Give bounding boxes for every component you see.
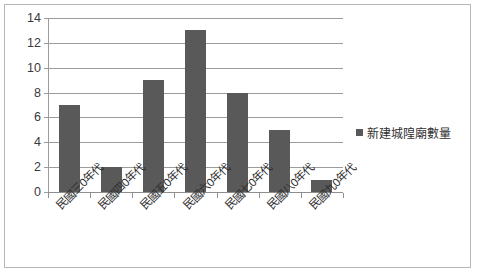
x-axis-tick-mark — [343, 193, 344, 198]
gridline — [48, 18, 343, 19]
x-axis-tick-mark — [174, 193, 175, 198]
x-axis-tick-mark — [48, 193, 49, 198]
y-axis-tick-label: 0 — [11, 185, 41, 199]
y-axis-tick-label: 10 — [11, 61, 41, 75]
y-axis-tick-mark — [44, 117, 48, 118]
x-axis-tick-mark — [259, 193, 260, 198]
y-axis-tick-mark — [44, 93, 48, 94]
legend-color-swatch — [356, 129, 363, 136]
y-axis-tick-label: 14 — [11, 11, 41, 25]
y-axis-tick-mark — [44, 18, 48, 19]
chart-frame: 02468101214 民國三0年代民國四0年代民國五0年代民國六0年代民國七0… — [4, 4, 471, 268]
x-axis-tick-mark — [217, 193, 218, 198]
x-axis-tick-mark — [132, 193, 133, 198]
chart-legend: 新建城隍廟數量 — [356, 124, 451, 141]
y-axis-tick-label: 12 — [11, 36, 41, 50]
y-axis-tick-label: 4 — [11, 135, 41, 149]
y-axis-tick-mark — [44, 142, 48, 143]
y-axis-tick-mark — [44, 68, 48, 69]
x-axis-tick-mark — [301, 193, 302, 198]
y-axis-line — [48, 18, 49, 192]
x-axis-tick-mark — [90, 193, 91, 198]
legend-series-label: 新建城隍廟數量 — [367, 124, 451, 141]
y-axis-tick-label: 2 — [11, 160, 41, 174]
y-axis-tick-label: 6 — [11, 110, 41, 124]
y-axis-tick-label: 8 — [11, 86, 41, 100]
y-axis-tick-mark — [44, 43, 48, 44]
y-axis-tick-mark — [44, 167, 48, 168]
